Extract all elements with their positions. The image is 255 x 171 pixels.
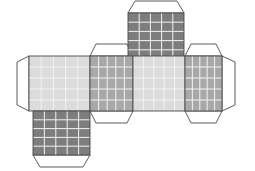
top-face-fill	[128, 13, 184, 59]
glue-tab-back-top	[185, 44, 222, 56]
glue-tab-top	[128, 1, 184, 13]
glue-tab-right	[222, 56, 235, 111]
right-face-fill	[133, 56, 185, 111]
front-face-fill	[90, 56, 133, 111]
glue-tab-front-bottom	[90, 111, 133, 123]
right-face	[133, 56, 185, 111]
glue-tab-back-bottom	[185, 111, 222, 123]
left-face-fill	[29, 56, 90, 111]
glue-tab-left	[17, 56, 29, 111]
top-face	[128, 13, 184, 59]
left-face	[29, 56, 90, 111]
back-face-fill	[185, 56, 222, 111]
cube-net-diagram	[0, 0, 255, 171]
back-face	[185, 56, 222, 111]
front-face	[90, 56, 133, 111]
bottom-face-fill	[33, 111, 90, 155]
bottom-face	[33, 111, 90, 155]
glue-tab-front-top	[90, 44, 133, 56]
glue-tab-bottom	[33, 155, 90, 167]
